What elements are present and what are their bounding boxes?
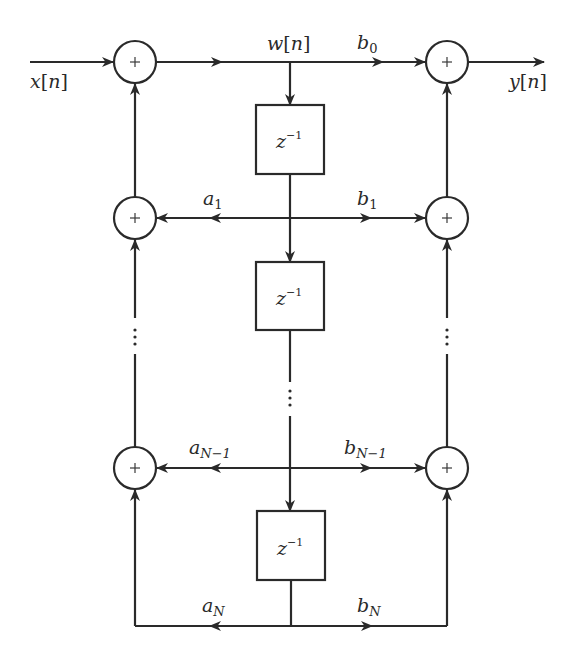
input-adder <box>114 41 156 83</box>
coef-a-n-minus-1-label: aN−1 <box>189 436 231 461</box>
row-n-minus-1-adder-right <box>426 447 468 489</box>
coef-b0-label: b0 <box>357 31 377 56</box>
coef-b-n-minus-1-label: bN−1 <box>344 436 387 461</box>
left-ellipsis <box>133 328 136 345</box>
center-ellipsis <box>288 389 291 406</box>
coef-a1-label: a1 <box>203 187 223 212</box>
right-ellipsis <box>445 328 448 345</box>
row-1-adder-right <box>426 197 468 239</box>
coef-a-n-label: aN <box>202 594 225 619</box>
input-signal-label: x[n] <box>30 70 68 92</box>
row-n-minus-1-adder-left <box>114 447 156 489</box>
output-adder <box>426 41 468 83</box>
row-1-adder-left <box>114 197 156 239</box>
internal-signal-label: w[n] <box>267 32 310 54</box>
direct-form-ii-block-diagram: x[n] w[n] y[n] b0 a1 b1 aN−1 bN−1 aN bN … <box>0 0 574 653</box>
coef-b1-label: b1 <box>357 187 377 212</box>
output-signal-label: y[n] <box>508 70 547 92</box>
coef-b-n-label: bN <box>357 594 381 619</box>
